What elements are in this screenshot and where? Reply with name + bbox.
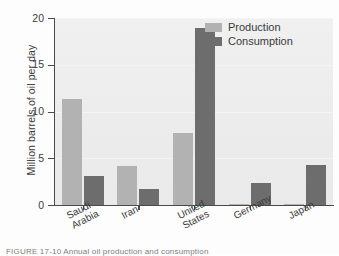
figure-caption: FIGURE 17-10 Annual oil production and c… — [6, 247, 339, 256]
y-tick-label: 0 — [16, 200, 44, 211]
bar-saudi-arabia-production — [62, 99, 82, 205]
gridline — [55, 112, 333, 113]
y-axis-line — [54, 18, 55, 206]
legend-item-consumption: Consumption — [205, 36, 293, 47]
legend-label: Production — [228, 22, 281, 33]
y-tick-mark — [48, 18, 54, 19]
y-tick-mark — [48, 205, 54, 206]
bar-united-states-consumption — [195, 28, 215, 205]
y-tick-mark — [48, 158, 54, 159]
legend-swatch-icon — [205, 37, 222, 46]
legend-label: Consumption — [228, 36, 293, 47]
gridline — [55, 65, 333, 66]
bar-iran-consumption — [139, 189, 159, 205]
legend-swatch-icon — [205, 23, 222, 32]
y-tick-label: 5 — [16, 153, 44, 164]
y-tick-label: 10 — [16, 106, 44, 117]
bar-iran-production — [117, 166, 137, 205]
x-tick-mark — [138, 206, 139, 210]
y-tick-label: 20 — [16, 13, 44, 24]
legend-item-production: Production — [205, 22, 293, 33]
y-tick-mark — [48, 112, 54, 113]
y-tick-label: 15 — [16, 59, 44, 70]
y-tick-mark — [48, 65, 54, 66]
gridline — [55, 18, 333, 19]
bar-united-states-production — [173, 133, 193, 205]
gridline — [55, 158, 333, 159]
chart-legend: ProductionConsumption — [205, 22, 293, 47]
